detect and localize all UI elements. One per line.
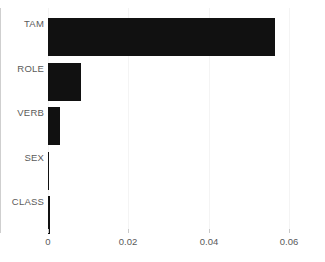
x-tick-label-0.02: 0.02: [119, 236, 138, 247]
x-tick-label-0: 0: [45, 236, 50, 247]
plot-area: [48, 8, 289, 233]
x-tick-label-0.06: 0.06: [280, 236, 299, 247]
x-tick-label-0.04: 0.04: [200, 236, 219, 247]
bar-tam: [48, 18, 275, 56]
x-axis-tick-labels: 0 0.02 0.04 0.06: [48, 236, 289, 252]
y-tick-label-tam: TAM: [0, 18, 44, 29]
y-tick-label-verb: VERB: [0, 107, 44, 118]
gridline-0.06: [289, 8, 290, 233]
x-tickmark-0.02: [128, 229, 129, 233]
y-tick-label-role: ROLE: [0, 63, 44, 74]
x-tickmark-0.06: [289, 229, 290, 233]
y-tick-label-sex: SEX: [0, 152, 44, 163]
y-axis-line: [0, 8, 1, 233]
bar-chart: TAM ROLE VERB SEX CLASS 0 0.02 0.04: [0, 0, 325, 262]
y-axis-tick-labels: TAM ROLE VERB SEX CLASS: [0, 8, 44, 233]
bar-sex: [48, 152, 49, 190]
y-tick-label-class: CLASS: [0, 196, 44, 207]
bar-role: [48, 63, 81, 101]
x-tickmark-0.04: [209, 229, 210, 233]
x-tickmark-0: [48, 229, 49, 233]
bar-verb: [48, 107, 60, 145]
